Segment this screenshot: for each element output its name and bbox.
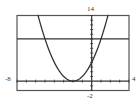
x-min-label: -8 [5,76,11,83]
x-max-label: 4 [132,76,136,83]
graph-plot [0,0,140,106]
y-max-label: 14 [87,6,94,13]
axes [17,16,129,91]
function-curve [38,16,109,82]
viewing-window-frame [17,16,129,91]
curves [17,16,129,82]
y-min-label: -2 [87,93,93,100]
